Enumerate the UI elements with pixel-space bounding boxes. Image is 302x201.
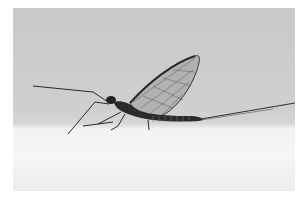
tail-filament [201,103,295,119]
tail-filament [201,109,273,120]
mayfly-illustration [13,8,295,191]
wing [130,56,199,117]
mayfly-photo [13,8,295,191]
